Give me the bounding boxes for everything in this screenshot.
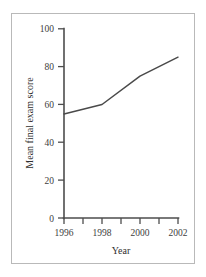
data-series-line xyxy=(64,57,178,114)
y-tick-label-20: 20 xyxy=(45,176,55,186)
x-tick-label-2000: 2000 xyxy=(131,228,150,238)
line-chart: 100 80 60 40 20 0 1996 1998 2000 2002 Ye… xyxy=(0,0,206,277)
y-tick-label-40: 40 xyxy=(45,138,55,148)
y-tick-label-60: 60 xyxy=(45,100,55,110)
y-tick-label-0: 0 xyxy=(49,214,54,224)
x-axis-title: Year xyxy=(112,245,131,256)
y-axis-title: Mean final exam score xyxy=(24,77,35,169)
x-tick-label-1996: 1996 xyxy=(55,228,74,238)
y-tick-label-80: 80 xyxy=(45,62,55,72)
x-tick-label-1998: 1998 xyxy=(93,228,112,238)
y-tick-label-100: 100 xyxy=(40,24,55,34)
x-tick-label-2002: 2002 xyxy=(169,228,188,238)
